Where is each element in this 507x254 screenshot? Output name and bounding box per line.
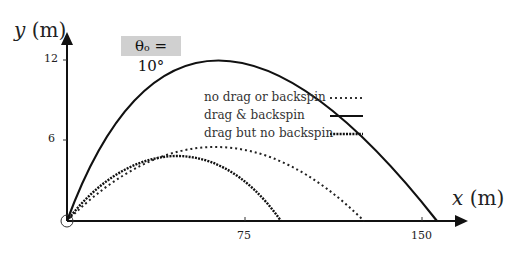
x-axis-arrow	[455, 215, 468, 227]
legend-label-drag-backspin: drag & backspin	[204, 108, 305, 122]
series-no-drag	[67, 147, 364, 221]
x-tick-75: 75	[237, 229, 251, 242]
x-axis-label: x (m)	[452, 186, 504, 210]
y-tick-12: 12	[44, 52, 58, 65]
legend-label-no-drag: no drag or backspin	[204, 90, 326, 104]
y-tick-6: 6	[48, 132, 55, 145]
series-drag-no-backspin	[67, 156, 281, 221]
launch-angle-annotation: θₒ = 10°	[121, 36, 181, 56]
series-drag-backspin	[67, 61, 437, 222]
y-axis-label: y (m)	[14, 18, 66, 42]
x-tick-150: 150	[411, 229, 432, 242]
legend-label-drag-no-backspin: drag but no backspin	[204, 126, 333, 140]
